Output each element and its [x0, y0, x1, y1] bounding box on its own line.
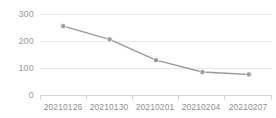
line-chart: 300 200 100 0 20210126 20210130 20210201…	[0, 0, 276, 118]
chart-plot-area	[0, 0, 276, 118]
data-point-marker[interactable]	[61, 24, 66, 29]
data-point-marker[interactable]	[200, 69, 205, 74]
series-line	[63, 26, 249, 74]
x-tick-label-1: 20210130	[86, 102, 132, 112]
data-point-marker[interactable]	[153, 58, 158, 63]
series-markers	[61, 24, 252, 78]
data-point-marker[interactable]	[246, 72, 251, 77]
x-tick-label-3: 20210204	[178, 102, 224, 112]
y-tick-label-300: 300	[6, 9, 34, 19]
y-tick-label-200: 200	[6, 36, 34, 46]
y-tick-label-100: 100	[6, 63, 34, 73]
x-tick-label-2: 20210201	[132, 102, 178, 112]
x-tick-label-0: 20210126	[40, 102, 86, 112]
data-point-marker[interactable]	[107, 37, 112, 42]
x-tick-label-4: 20210207	[224, 102, 272, 112]
y-tick-label-0: 0	[6, 90, 34, 100]
x-axis	[40, 96, 272, 101]
